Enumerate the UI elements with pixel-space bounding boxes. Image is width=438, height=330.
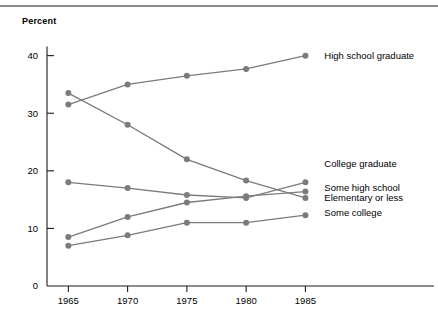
series-data-point	[184, 220, 190, 226]
series-data-point	[243, 220, 249, 226]
series-data-point	[184, 156, 190, 162]
series-data-point	[65, 90, 71, 96]
series-label: College graduate	[324, 158, 396, 169]
y-axis-tick-label: 20	[27, 165, 38, 176]
series-data-point	[125, 122, 131, 128]
x-axis-tick-label: 1980	[236, 295, 257, 306]
y-axis-tick-label: 40	[27, 50, 38, 61]
series-data-point	[65, 102, 71, 108]
series-data-point	[125, 232, 131, 238]
x-axis-tick-label: 1970	[117, 295, 138, 306]
series-label: Some high school	[324, 182, 400, 193]
series-data-point	[125, 214, 131, 220]
series-label: High school graduate	[324, 50, 414, 61]
series-data-point	[302, 179, 308, 185]
y-axis-tick-label: 0	[33, 280, 38, 291]
series-data-point	[243, 178, 249, 184]
series-data-point	[65, 234, 71, 240]
series-1	[65, 53, 308, 108]
series-data-point	[184, 73, 190, 79]
series-line	[68, 56, 305, 105]
y-axis-tick-label: 10	[27, 223, 38, 234]
series-label: Elementary or less	[324, 192, 403, 203]
series-5	[65, 212, 308, 249]
series-line	[68, 93, 305, 198]
series-data-point	[243, 193, 249, 199]
series-data-point	[302, 189, 308, 195]
x-axis-tick-label: 1965	[58, 295, 79, 306]
x-axis-tick-label: 1975	[176, 295, 197, 306]
series-data-point	[302, 195, 308, 201]
x-axis-tick-label: 1985	[295, 295, 316, 306]
series-data-point	[302, 212, 308, 218]
y-axis-tick-label: 30	[27, 108, 38, 119]
series-data-point	[65, 179, 71, 185]
series-data-point	[243, 66, 249, 72]
series-3	[65, 179, 308, 201]
series-data-point	[125, 81, 131, 87]
series-line	[68, 192, 305, 238]
series-2	[65, 90, 308, 201]
series-data-point	[302, 53, 308, 59]
chart-figure: Percent 01020304019651970197519801985 Hi…	[0, 0, 438, 330]
series-data-point	[125, 185, 131, 191]
series-label: Some college	[324, 207, 382, 218]
series-data-point	[184, 199, 190, 205]
series-data-point	[65, 243, 71, 249]
series-data-point	[184, 192, 190, 198]
